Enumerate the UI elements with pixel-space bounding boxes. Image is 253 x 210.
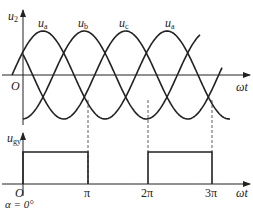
pulse-2 bbox=[148, 152, 212, 184]
curve-label-ua: ua bbox=[38, 17, 48, 31]
lower-y-axis-label: ugy bbox=[7, 132, 21, 146]
alpha-caption: α = 0° bbox=[5, 199, 34, 210]
curve-label-ua-2: ua bbox=[165, 17, 175, 31]
dashed-markers bbox=[88, 100, 212, 184]
upper-origin-label: O bbox=[11, 80, 20, 92]
tick-pi: π bbox=[84, 187, 90, 199]
lower-x-axis-label: ωt bbox=[236, 187, 248, 199]
tick-2pi: 2π bbox=[141, 187, 153, 199]
curve-label-uc: uc bbox=[119, 17, 129, 31]
tick-3pi: 3π bbox=[205, 187, 217, 199]
curve-label-ub: ub bbox=[78, 17, 88, 31]
pulse-1 bbox=[23, 152, 88, 184]
waveform-diagram bbox=[0, 0, 253, 210]
upper-x-axis-label: ωt bbox=[236, 81, 248, 93]
upper-y-axis-label: u2 bbox=[8, 10, 18, 24]
